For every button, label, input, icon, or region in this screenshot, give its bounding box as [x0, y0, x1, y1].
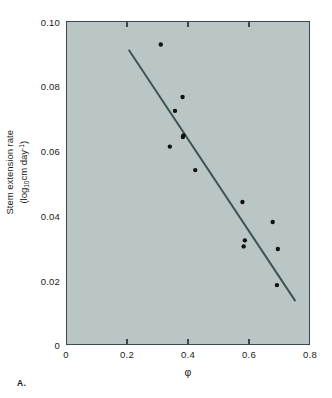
y-axis-title-units-sub: 10: [22, 181, 29, 188]
data-point: [271, 220, 275, 224]
data-point: [243, 238, 247, 242]
y-tick-label-0.06: 0.06: [0, 146, 60, 157]
x-tick-label-0.4: 0.4: [168, 349, 208, 360]
regression-line-segment: [129, 50, 296, 301]
y-axis-title-units-post: ): [18, 141, 29, 144]
plot-area: [66, 21, 310, 345]
y-axis-title-line1: Stem extension rate: [4, 130, 16, 215]
data-point: [193, 168, 197, 172]
y-axis-title-units-pre: (log: [18, 188, 29, 204]
y-tick-label-0.02: 0.02: [0, 276, 60, 287]
data-point: [240, 200, 244, 204]
y-axis-title-line2: (log10cm day-1): [16, 130, 33, 215]
x-tick-mark-top-0.2: [126, 21, 128, 27]
data-point: [180, 95, 184, 99]
x-tick-label-0.6: 0.6: [229, 349, 269, 360]
data-point: [276, 247, 280, 251]
plot-canvas: [67, 22, 309, 344]
figure-panel-a: Stem extension rate (log10cm day-1) 0.10…: [0, 0, 332, 398]
x-tick-mark-top-0.4: [187, 21, 189, 27]
x-tick-label-0.8: 0.8: [290, 349, 330, 360]
data-point: [168, 144, 172, 148]
x-tick-mark-0.4: [187, 339, 189, 345]
panel-label: A.: [17, 378, 26, 388]
data-point: [159, 42, 163, 46]
x-tick-mark-top-0.6: [248, 21, 250, 27]
data-point: [275, 283, 279, 287]
x-axis-title: φ: [66, 366, 310, 378]
x-tick-mark-0.6: [248, 339, 250, 345]
y-tick-label-0.10: 0.10: [0, 17, 60, 28]
y-axis-title: Stem extension rate (log10cm day-1): [0, 0, 36, 345]
x-tick-label-0.2: 0.2: [107, 349, 147, 360]
y-tick-label-0.08: 0.08: [0, 81, 60, 92]
regression-line: [129, 50, 296, 301]
x-tick-mark-0.2: [126, 339, 128, 345]
x-tick-label-0: 0: [46, 349, 86, 360]
data-point: [173, 109, 177, 113]
data-point: [241, 244, 245, 248]
y-tick-label-0.04: 0.04: [0, 211, 60, 222]
data-point: [181, 135, 185, 139]
